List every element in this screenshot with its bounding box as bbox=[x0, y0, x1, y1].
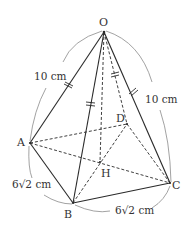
arc-bc-right bbox=[152, 186, 170, 208]
edge-ad bbox=[30, 124, 127, 143]
edge-oc bbox=[104, 32, 170, 183]
arc-bc-left bbox=[75, 205, 110, 212]
measure-ab: 6√2 cm bbox=[12, 178, 51, 190]
edge-bd bbox=[73, 124, 127, 203]
label-o: O bbox=[99, 16, 108, 29]
point-c bbox=[169, 182, 171, 184]
point-b bbox=[72, 202, 74, 204]
tick-ob-2 bbox=[86, 105, 95, 106]
label-b: B bbox=[64, 208, 72, 221]
tick-od-1 bbox=[111, 72, 119, 74]
arc-oa-top bbox=[63, 31, 102, 62]
arc-oc-top bbox=[106, 31, 152, 82]
arc-ab-top bbox=[29, 146, 32, 178]
arc-oc-bottom bbox=[160, 110, 171, 182]
point-d bbox=[126, 123, 128, 125]
equal-tick-marks bbox=[64, 72, 138, 106]
measure-bc: 6√2 cm bbox=[115, 204, 154, 216]
edge-oa bbox=[30, 32, 104, 143]
label-a: A bbox=[16, 136, 26, 149]
point-a bbox=[29, 142, 31, 144]
point-h bbox=[99, 161, 101, 163]
point-o bbox=[103, 31, 106, 34]
arc-oa-bottom bbox=[30, 88, 46, 141]
edge-ab bbox=[30, 143, 73, 203]
label-c: C bbox=[172, 179, 180, 192]
edge-bc bbox=[73, 183, 170, 203]
pyramid-diagram: O A B C D H 10 cm 10 cm 6√2 cm 6√2 cm bbox=[0, 0, 190, 230]
edge-ob bbox=[73, 32, 104, 203]
label-d: D bbox=[116, 112, 125, 125]
label-h: H bbox=[101, 167, 111, 180]
tick-ob-1 bbox=[86, 102, 95, 103]
measure-oc: 10 cm bbox=[145, 93, 178, 105]
measure-oa: 10 cm bbox=[34, 70, 67, 82]
